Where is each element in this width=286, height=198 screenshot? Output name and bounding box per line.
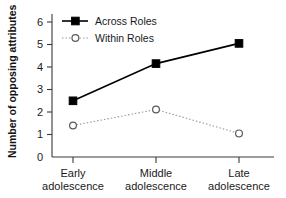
x-tick-label-middle-line2: adolescence — [125, 180, 187, 192]
series-line-across-roles — [73, 43, 239, 100]
y-tick-label-4: 4 — [37, 61, 43, 73]
y-tick-label-0: 0 — [37, 151, 43, 163]
x-tick-label-late-line2: adolescence — [208, 180, 270, 192]
x-tick-label-late-line1: Late — [228, 167, 249, 179]
x-tick-label-middle-line1: Middle — [140, 167, 172, 179]
line-chart: Number of opposing attributes 6 5 4 3 2 … — [0, 0, 286, 198]
y-tick-label-3: 3 — [37, 83, 43, 95]
open-circle-icon — [72, 35, 79, 42]
chart-container: Number of opposing attributes 6 5 4 3 2 … — [0, 0, 286, 198]
legend-item-across-roles: Across Roles — [62, 15, 157, 27]
y-tick-label-2: 2 — [37, 106, 43, 118]
x-tick-label-early-line1: Early — [60, 167, 86, 179]
y-axis-label: Number of opposing attributes — [6, 4, 18, 158]
y-tick-label-1: 1 — [37, 128, 43, 140]
data-point-across-roles-middle — [152, 60, 160, 68]
legend-label-across-roles: Across Roles — [95, 15, 157, 27]
data-point-within-roles-late — [236, 130, 243, 137]
y-tick-label-5: 5 — [37, 38, 43, 50]
legend-label-within-roles: Within Roles — [95, 32, 154, 44]
x-tick-label-early-line2: adolescence — [42, 180, 104, 192]
legend-item-within-roles: Within Roles — [62, 32, 154, 44]
filled-square-icon — [72, 17, 80, 25]
data-point-across-roles-early — [69, 97, 77, 105]
y-tick-label-6: 6 — [37, 16, 43, 28]
data-point-within-roles-early — [70, 122, 77, 129]
chart-legend: Across Roles Within Roles — [62, 15, 157, 44]
data-point-across-roles-late — [235, 40, 243, 48]
data-point-within-roles-middle — [153, 106, 160, 113]
